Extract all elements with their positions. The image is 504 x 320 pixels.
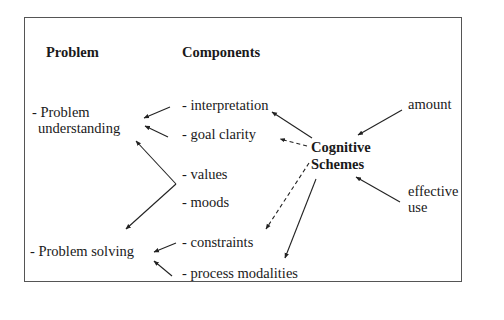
arrow-schemes-to-processmodalities [285, 179, 316, 258]
arrow-valuesmoods-to-solving [126, 184, 176, 229]
arrow-processmodalities-to-solving [154, 261, 172, 276]
arrow-valuesmoods-to-understanding [136, 141, 176, 184]
arrow-goalclarity-to-understanding [145, 126, 168, 137]
arrow-interpretation-to-understanding [144, 107, 170, 118]
arrow-schemes-to-constraints [266, 163, 309, 229]
arrow-constraints-to-solving [154, 243, 176, 252]
arrow-effectiveuse-to-schemes [356, 177, 400, 202]
arrow-schemes-to-interpretation [272, 112, 312, 138]
arrow-schemes-to-goalclarity [280, 139, 307, 146]
arrow-amount-to-schemes [358, 110, 402, 135]
diagram-edges [0, 0, 504, 320]
